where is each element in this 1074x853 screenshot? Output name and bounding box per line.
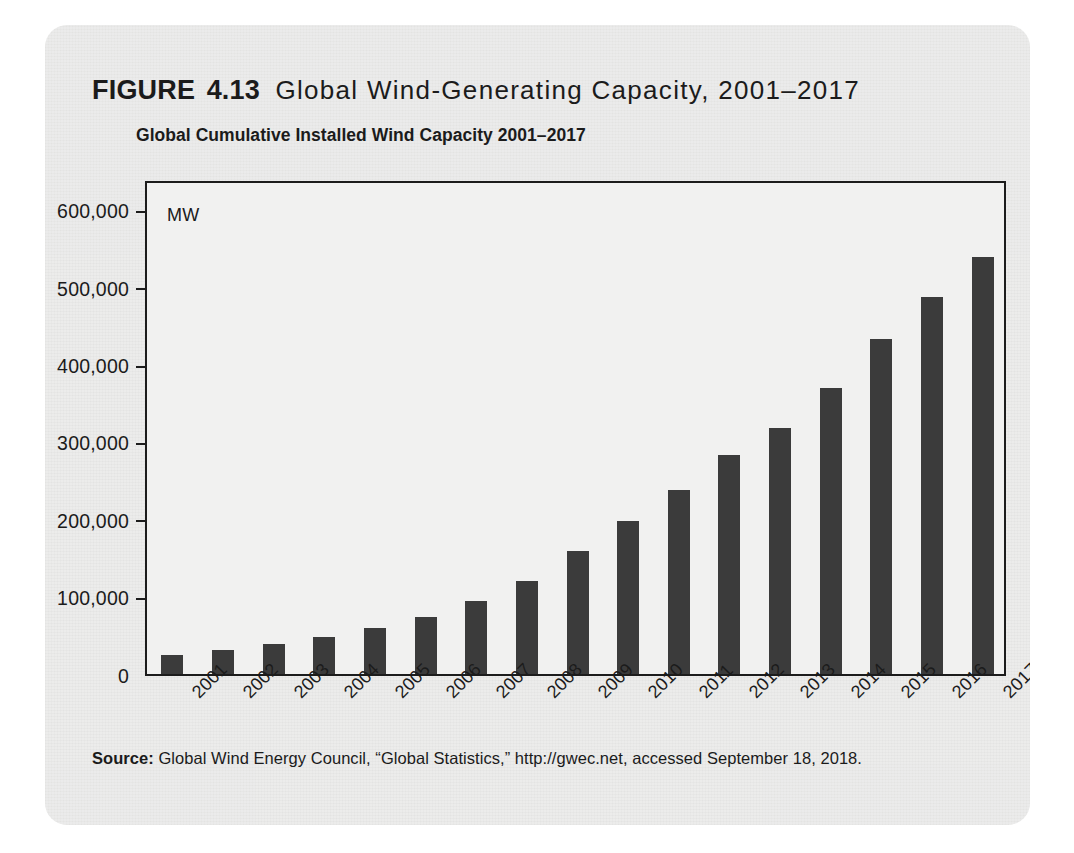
- x-axis-tick-label: 2017: [999, 688, 1014, 703]
- y-axis: 0100,000200,000300,000400,000500,000600,…: [45, 181, 145, 676]
- y-axis-tick-mark: [136, 443, 145, 445]
- y-axis-tick-label: 500,000: [57, 277, 129, 300]
- x-axis-tick-label: 2010: [644, 688, 659, 703]
- bar: [870, 339, 892, 674]
- bar: [668, 490, 690, 674]
- x-axis-tick-label: 2001: [188, 688, 203, 703]
- bar: [769, 428, 791, 674]
- source-note-prefix: Source:: [92, 749, 154, 767]
- source-note: Source: Global Wind Energy Council, “Glo…: [92, 749, 862, 768]
- figure-heading: FIGURE 4.13 Global Wind-Generating Capac…: [92, 75, 860, 106]
- bar: [972, 257, 994, 674]
- x-axis-tick-label: 2005: [391, 688, 406, 703]
- y-axis-tick-mark: [136, 520, 145, 522]
- plot-area: MW: [145, 181, 1006, 676]
- y-axis-tick-label: 400,000: [57, 355, 129, 378]
- y-axis-tick-label: 200,000: [57, 509, 129, 532]
- bar: [820, 388, 842, 674]
- x-axis-tick-label: 2003: [290, 688, 305, 703]
- y-axis-tick-mark: [136, 211, 145, 213]
- x-axis-tick-label: 2007: [492, 688, 507, 703]
- y-axis-tick-mark: [136, 366, 145, 368]
- bar: [567, 551, 589, 674]
- x-axis-tick-label: 2002: [239, 688, 254, 703]
- y-axis-tick-mark: [136, 598, 145, 600]
- x-axis-tick-label: 2011: [695, 688, 710, 703]
- bar-series: [147, 183, 1004, 674]
- y-axis-tick-label: 0: [118, 664, 129, 687]
- figure-card: FIGURE 4.13 Global Wind-Generating Capac…: [45, 25, 1030, 825]
- y-axis-tick-label: 100,000: [57, 587, 129, 610]
- x-axis-tick-label: 2016: [948, 688, 963, 703]
- x-axis: 2001200220032004200520062007200820092010…: [145, 676, 1006, 756]
- bar: [161, 655, 183, 674]
- figure-title: Global Wind-Generating Capacity, 2001–20…: [275, 75, 860, 105]
- y-axis-tick-mark: [136, 288, 145, 290]
- x-axis-tick-label: 2008: [543, 688, 558, 703]
- y-axis-tick-label: 600,000: [57, 200, 129, 223]
- chart-title: Global Cumulative Installed Wind Capacit…: [136, 125, 586, 146]
- bar: [921, 297, 943, 674]
- bar: [718, 455, 740, 674]
- figure-label: FIGURE: [92, 75, 195, 105]
- source-note-text: Global Wind Energy Council, “Global Stat…: [158, 749, 862, 767]
- x-axis-tick-label: 2014: [847, 688, 862, 703]
- figure-number: 4.13: [207, 75, 260, 105]
- x-axis-tick-label: 2006: [442, 688, 457, 703]
- bar: [617, 521, 639, 674]
- x-axis-tick-label: 2004: [340, 688, 355, 703]
- y-axis-tick-label: 300,000: [57, 432, 129, 455]
- x-axis-tick-label: 2013: [796, 688, 811, 703]
- x-axis-tick-label: 2015: [897, 688, 912, 703]
- x-axis-tick-label: 2012: [745, 688, 760, 703]
- y-axis-tick-spacer: [136, 675, 145, 677]
- x-axis-tick-label: 2009: [594, 688, 609, 703]
